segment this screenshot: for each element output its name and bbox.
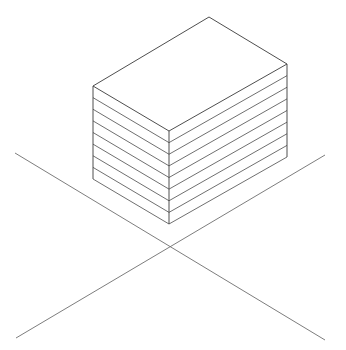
stacked-box [93, 17, 287, 224]
diagram-canvas [0, 0, 346, 350]
isometric-drawing [0, 0, 346, 350]
